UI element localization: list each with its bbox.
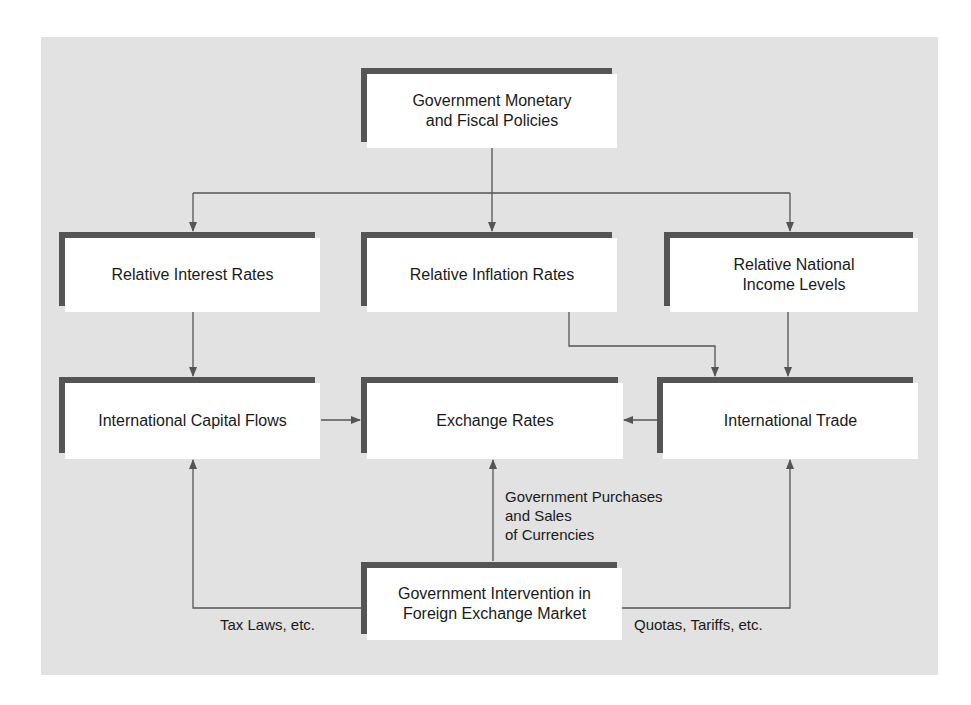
node-label: International Trade [663, 383, 918, 459]
node-income-levels: Relative National Income Levels [664, 232, 918, 312]
node-exchange-rates: Exchange Rates [361, 377, 623, 459]
node-inflation-rates: Relative Inflation Rates [361, 232, 617, 312]
node-label: Exchange Rates [367, 383, 623, 459]
node-capital-flows: International Capital Flows [59, 377, 320, 459]
node-label: Relative Inflation Rates [367, 238, 617, 312]
edge-label-quotas-tariffs: Quotas, Tariffs, etc. [634, 615, 763, 634]
node-interest-rates: Relative Interest Rates [59, 232, 320, 312]
node-label: International Capital Flows [65, 383, 320, 459]
node-intervention: Government Intervention in Foreign Excha… [361, 562, 622, 640]
node-label: Government Monetary and Fiscal Policies [367, 74, 617, 148]
node-label: Relative National Income Levels [670, 238, 918, 312]
node-trade: International Trade [657, 377, 918, 459]
edge-label-tax-laws: Tax Laws, etc. [220, 615, 315, 634]
node-policies: Government Monetary and Fiscal Policies [361, 68, 617, 148]
node-label: Relative Interest Rates [65, 238, 320, 312]
node-label: Government Intervention in Foreign Excha… [367, 568, 622, 640]
edge-label-purchases-sales: Government Purchases and Sales of Curren… [505, 487, 663, 544]
arrow-inflation-to-trade [569, 312, 715, 376]
arrow-intervention-to-capital [193, 460, 361, 608]
